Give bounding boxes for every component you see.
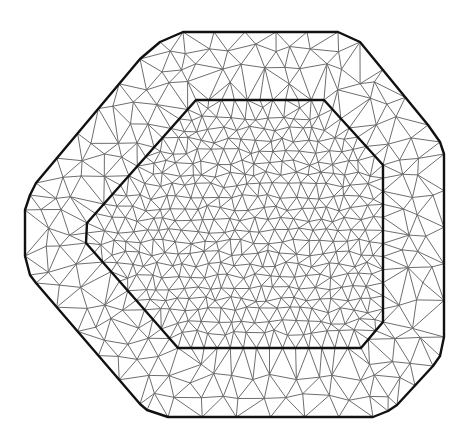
mesh-edge bbox=[303, 128, 309, 140]
mesh-edge bbox=[230, 211, 235, 219]
mesh-edge bbox=[353, 149, 358, 160]
mesh-edge bbox=[230, 332, 233, 348]
mesh-edge bbox=[125, 206, 132, 217]
mesh-edge bbox=[231, 289, 234, 297]
mesh-edge bbox=[370, 396, 388, 411]
mesh-edge bbox=[145, 174, 154, 183]
mesh-edge bbox=[161, 309, 162, 329]
mesh-edge bbox=[154, 218, 159, 230]
mesh-edge bbox=[214, 207, 220, 219]
mesh-edge bbox=[191, 278, 199, 288]
mesh-edge bbox=[335, 331, 339, 349]
mesh-edge bbox=[247, 184, 258, 196]
mesh-edge bbox=[264, 129, 271, 142]
mesh-edge bbox=[120, 278, 128, 281]
mesh-edge bbox=[303, 120, 310, 128]
mesh-edge bbox=[275, 131, 283, 138]
mesh-edge bbox=[294, 219, 309, 222]
mesh-edge bbox=[193, 164, 201, 175]
mesh-edge bbox=[271, 276, 273, 287]
mesh-edge bbox=[281, 297, 294, 298]
mesh-edge bbox=[327, 331, 335, 348]
mesh-edge bbox=[160, 42, 170, 51]
mesh-edge bbox=[169, 288, 185, 290]
mesh-edge bbox=[172, 183, 185, 185]
mesh-edge bbox=[185, 311, 188, 321]
mesh-edge bbox=[182, 253, 190, 263]
mesh-edge bbox=[114, 233, 118, 240]
mesh-edge bbox=[239, 149, 242, 161]
mesh-edge bbox=[286, 254, 297, 262]
mesh-edge bbox=[148, 338, 158, 356]
mesh-edge bbox=[175, 242, 191, 244]
mesh-edge bbox=[340, 308, 345, 324]
mesh-edge bbox=[331, 278, 342, 288]
mesh-edge bbox=[160, 196, 167, 210]
mesh-edge bbox=[234, 332, 247, 333]
mesh-edge bbox=[418, 154, 444, 175]
mesh-edge bbox=[309, 127, 312, 140]
mesh-edge bbox=[309, 140, 316, 153]
mesh-edge bbox=[309, 321, 322, 322]
mesh-edge bbox=[268, 206, 276, 219]
mesh-edge bbox=[232, 256, 234, 266]
mesh-edge bbox=[235, 310, 241, 321]
mesh-edge bbox=[48, 264, 76, 272]
mesh-edge bbox=[300, 307, 308, 321]
mesh-edge bbox=[236, 398, 264, 417]
mesh-edge bbox=[223, 396, 236, 417]
mesh-edge bbox=[388, 144, 399, 160]
mesh-edge bbox=[290, 297, 294, 307]
mesh-edge bbox=[326, 229, 333, 242]
mesh-edge bbox=[188, 82, 196, 101]
mesh-edge bbox=[344, 217, 361, 219]
mesh-edge bbox=[370, 176, 383, 178]
mesh-edge bbox=[417, 300, 444, 301]
mesh-edge bbox=[320, 290, 330, 299]
mesh-edge bbox=[185, 54, 195, 64]
mesh-edge bbox=[235, 230, 250, 232]
mesh-edge bbox=[127, 195, 141, 196]
mesh-edge bbox=[182, 332, 191, 348]
mesh-edge bbox=[232, 375, 253, 379]
mesh-edge bbox=[137, 221, 148, 230]
mesh-edge bbox=[259, 229, 274, 232]
mesh-edge bbox=[253, 348, 257, 380]
mesh-edge bbox=[358, 273, 366, 286]
mesh-edge bbox=[245, 100, 247, 119]
mesh-edge bbox=[326, 207, 332, 222]
mesh-edge bbox=[219, 308, 221, 323]
mesh-edge bbox=[173, 254, 179, 266]
mesh-edge bbox=[169, 83, 188, 110]
mesh-edge bbox=[395, 339, 410, 364]
mesh-edge bbox=[349, 396, 370, 400]
mesh-edge bbox=[294, 119, 310, 120]
mesh-edge bbox=[211, 177, 215, 183]
mesh-edge bbox=[359, 313, 367, 319]
mesh-edge bbox=[297, 241, 310, 255]
mesh-edge bbox=[264, 118, 268, 129]
mesh-edge bbox=[165, 242, 176, 253]
mesh-edge bbox=[304, 321, 309, 335]
mesh-edge bbox=[230, 348, 231, 375]
mesh-edge bbox=[324, 131, 335, 138]
mesh-edge bbox=[166, 301, 170, 309]
mesh-edge bbox=[268, 117, 284, 118]
mesh-edge bbox=[242, 160, 254, 164]
mesh-edge bbox=[173, 154, 186, 155]
mesh-edge bbox=[179, 277, 190, 278]
mesh-edge bbox=[232, 348, 244, 375]
mesh-edge bbox=[191, 220, 198, 231]
mesh-edge bbox=[173, 266, 179, 277]
mesh-edge bbox=[61, 197, 70, 210]
mesh-edge bbox=[154, 376, 169, 394]
mesh-edge bbox=[223, 69, 230, 82]
mesh-edge bbox=[423, 267, 432, 283]
mesh-edge bbox=[223, 51, 228, 69]
mesh-edge bbox=[368, 339, 392, 361]
mesh-edge bbox=[418, 175, 444, 191]
mesh-edge bbox=[316, 153, 319, 162]
mesh-edge bbox=[191, 267, 196, 278]
mesh-edge bbox=[383, 305, 399, 322]
mesh-edge bbox=[404, 209, 410, 235]
